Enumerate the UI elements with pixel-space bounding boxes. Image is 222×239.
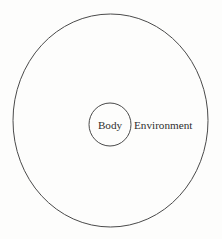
environment-label: Environment	[134, 119, 193, 131]
body-label: Body	[98, 119, 123, 131]
figure-canvas: Body Environment	[0, 0, 222, 239]
nested-circles-diagram: Body Environment	[0, 0, 222, 239]
